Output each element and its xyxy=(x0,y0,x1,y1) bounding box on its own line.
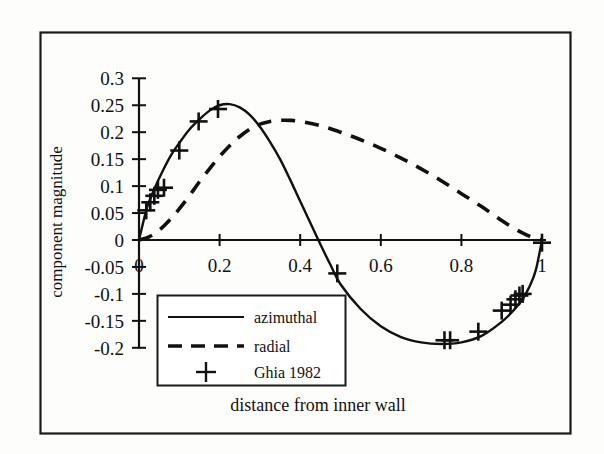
data-marker-7 xyxy=(209,100,227,118)
x-tick-label-1: 0.2 xyxy=(208,255,232,276)
legend-label-radial: radial xyxy=(254,338,291,355)
x-tick-label-0: 0 xyxy=(134,255,144,276)
y-tick-label-10: -0.2 xyxy=(94,338,124,359)
data-marker-11 xyxy=(469,323,487,341)
y-tick-label-3: 0.15 xyxy=(91,149,124,170)
x-tick-label-4: 0.8 xyxy=(450,255,474,276)
y-tick-label-0: 0.3 xyxy=(100,68,124,89)
x-tick-label-5: 1 xyxy=(537,255,547,276)
y-tick-label-5: 0.05 xyxy=(91,203,124,224)
figure-root: 00.20.40.60.810.30.250.20.150.10.050-0.0… xyxy=(0,0,604,454)
x-axis-title: distance from inner wall xyxy=(230,395,405,415)
x-tick-label-2: 0.4 xyxy=(288,255,312,276)
y-tick-label-4: 0.1 xyxy=(100,176,124,197)
y-axis-title: component magnitude xyxy=(47,146,66,298)
y-tick-label-7: -0.05 xyxy=(84,257,124,278)
legend-label-azimuthal: azimuthal xyxy=(254,309,318,326)
legend-label-ghia: Ghia 1982 xyxy=(254,364,321,381)
y-tick-label-1: 0.25 xyxy=(91,95,124,116)
y-tick-label-8: -0.1 xyxy=(94,284,124,305)
y-tick-label-2: 0.2 xyxy=(100,122,124,143)
y-tick-label-9: -0.15 xyxy=(84,311,124,332)
data-marker-17 xyxy=(533,234,551,252)
x-tick-label-3: 0.6 xyxy=(369,255,393,276)
series-path-radial xyxy=(139,120,542,240)
data-marker-15 xyxy=(510,287,528,305)
legend: azimuthal radial Ghia 1982 xyxy=(158,296,346,386)
chart-canvas: 00.20.40.60.810.30.250.20.150.10.050-0.0… xyxy=(0,0,604,454)
y-tick-label-6: 0 xyxy=(115,230,125,251)
data-marker-5 xyxy=(170,142,188,160)
